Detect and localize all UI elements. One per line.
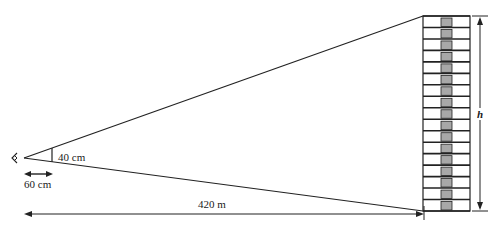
- building-floor-window: [441, 18, 452, 26]
- eye-to-object-dimension: [24, 171, 53, 177]
- building-floor-window: [441, 144, 452, 152]
- building-floor-window: [441, 202, 452, 210]
- building-floor-window: [441, 179, 452, 187]
- eye-to-object-label: 60 cm: [24, 178, 51, 190]
- building-floor-window: [441, 29, 452, 37]
- building-floor-window: [441, 52, 452, 60]
- building-floor-window: [441, 41, 452, 49]
- building-floor-window: [441, 87, 452, 95]
- similar-triangles-diagram: [0, 0, 496, 235]
- building-floor-window: [441, 167, 452, 175]
- building-floor-window: [441, 75, 452, 83]
- building-floor-window: [441, 156, 452, 164]
- object-size-label: 40 cm: [58, 151, 85, 163]
- building-floor-window: [441, 110, 452, 118]
- height-label: h: [476, 108, 484, 120]
- building-floor-window: [441, 98, 452, 106]
- building-floor-window: [441, 190, 452, 198]
- building-floor-window: [441, 133, 452, 141]
- sight-line-top: [24, 16, 423, 158]
- building: [423, 16, 470, 211]
- building-floor-window: [441, 121, 452, 129]
- eye-icon: [12, 153, 17, 163]
- building-floor-window: [441, 64, 452, 72]
- distance-label: 420 m: [198, 198, 226, 210]
